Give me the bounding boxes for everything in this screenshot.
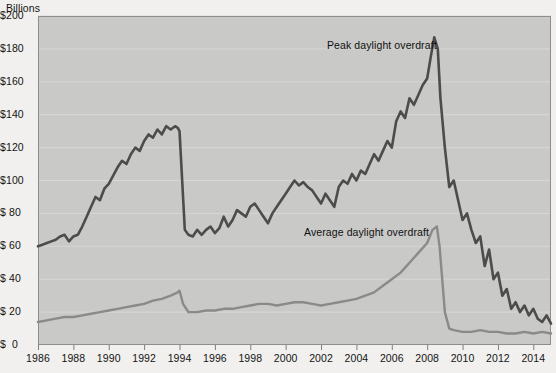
x-axis-tick-label: 2010 bbox=[451, 352, 475, 364]
x-axis-tick-label: 2002 bbox=[309, 352, 333, 364]
x-axis-tick-label: 1994 bbox=[168, 352, 192, 364]
y-axis-tick-label: $ 80 bbox=[0, 206, 33, 218]
y-axis-tick-label: $ 60 bbox=[0, 239, 33, 251]
x-axis-tick-label: 2000 bbox=[274, 352, 298, 364]
y-axis-tick-label: $180 bbox=[0, 42, 33, 54]
y-axis-tick-label: $100 bbox=[0, 174, 33, 186]
x-axis-tick-label: 2012 bbox=[486, 352, 510, 364]
x-axis-tick-label: 1998 bbox=[238, 352, 262, 364]
y-axis-tick-label: $ 20 bbox=[0, 305, 33, 317]
x-axis-tick-label: 2006 bbox=[380, 352, 404, 364]
y-axis-tick-label: $ 40 bbox=[0, 272, 33, 284]
chart-canvas: Billions $200$180$160$140$120$100$ 80$ 6… bbox=[0, 0, 556, 373]
annotation-average-daylight-overdraft: Average daylight overdraft bbox=[304, 226, 429, 238]
y-axis-tick-label: $120 bbox=[0, 141, 33, 153]
y-axis-tick-label: $140 bbox=[0, 108, 33, 120]
x-axis-tick-label: 1988 bbox=[61, 352, 85, 364]
x-axis-tick-label: 2014 bbox=[521, 352, 545, 364]
line-chart-plot bbox=[0, 0, 556, 373]
y-axis-tick-label: $160 bbox=[0, 75, 33, 87]
y-axis-tick-label: $200 bbox=[0, 9, 33, 21]
x-axis-tick-label: 1992 bbox=[132, 352, 156, 364]
x-axis-tick-label: 1990 bbox=[97, 352, 121, 364]
x-axis-tick-label: 1996 bbox=[203, 352, 227, 364]
x-axis-tick-label: 2008 bbox=[415, 352, 439, 364]
x-axis-tick-label: 2004 bbox=[345, 352, 369, 364]
annotation-peak-daylight-overdraft: Peak daylight overdraft bbox=[327, 39, 437, 51]
y-axis-tick-label: $ 0 bbox=[0, 338, 33, 350]
x-axis-tick-label: 1986 bbox=[26, 352, 50, 364]
